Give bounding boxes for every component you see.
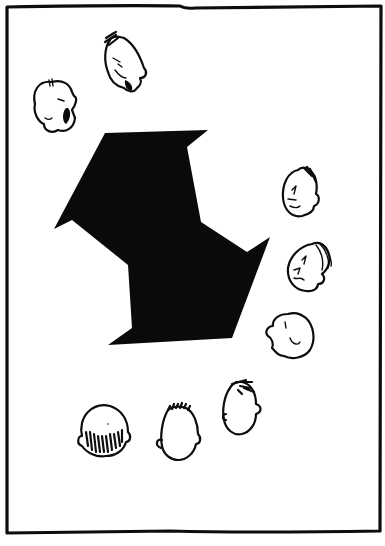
back-head-spiky — [223, 380, 261, 434]
central-black-shape — [54, 130, 270, 345]
smirking-head — [283, 167, 319, 216]
back-head-shaded — [78, 405, 130, 456]
grumbling-head — [288, 243, 331, 291]
back-head-crewcut — [157, 403, 200, 460]
scowling-head — [105, 32, 146, 91]
profile-bald-head — [266, 313, 313, 358]
comic-panel — [0, 0, 385, 546]
shouting-head — [34, 79, 76, 132]
